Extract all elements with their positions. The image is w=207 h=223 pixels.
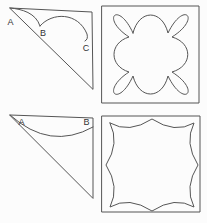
square-outline [102, 116, 200, 212]
square-outline [102, 6, 199, 103]
unfolded-curved-square-pattern [100, 110, 207, 223]
label-c: C [83, 43, 90, 53]
curved-square-outline [106, 119, 198, 211]
label-a: A [18, 117, 24, 127]
cut-line-b-c [40, 16, 87, 41]
kirigami-diagram: A B C A B [0, 0, 207, 223]
triangle-outline [10, 8, 93, 89]
folded-triangle-abc: A B C [0, 0, 100, 105]
triangle-outline [10, 115, 93, 198]
unfolded-scallop-pattern [100, 0, 207, 107]
label-b: B [83, 117, 89, 127]
label-a: A [7, 17, 13, 27]
folded-triangle-ab: A B [0, 110, 100, 223]
label-b: B [40, 28, 46, 38]
scallop-flower-outline [114, 15, 189, 95]
